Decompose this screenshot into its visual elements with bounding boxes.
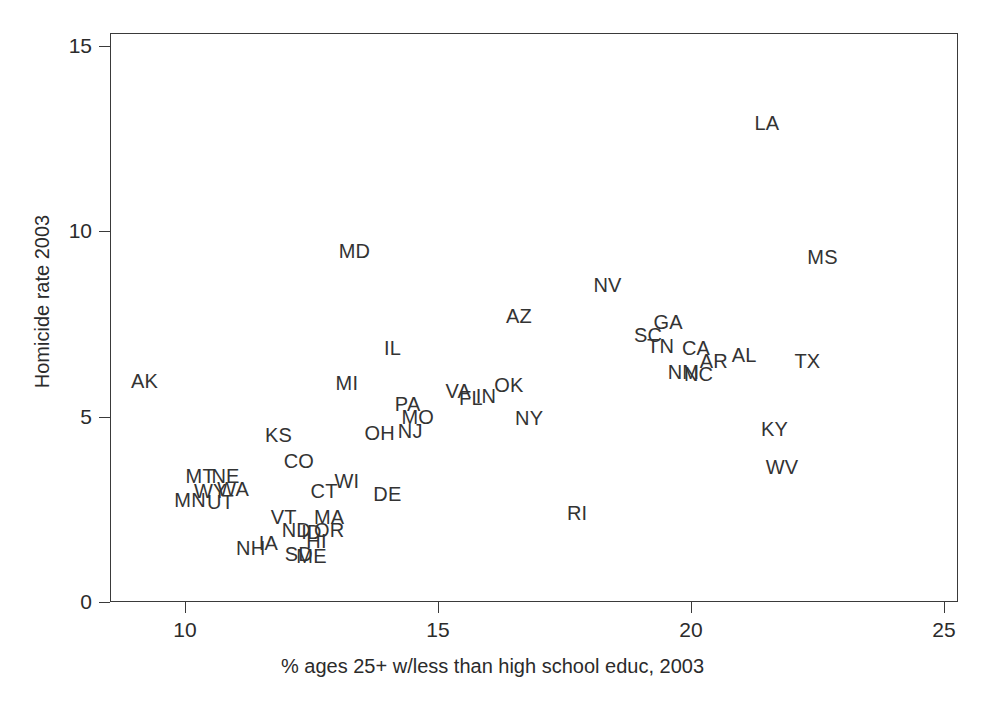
y-tick-label-wrap: 0 <box>0 591 92 612</box>
y-axis-title: Homicide rate 2003 <box>31 112 54 492</box>
x-tick-mark <box>691 602 692 613</box>
data-point-label-oh: OH <box>365 423 395 443</box>
y-tick-mark <box>99 231 110 232</box>
data-point-label-ia: IA <box>259 533 278 553</box>
data-point-label-ga: GA <box>654 312 683 332</box>
data-point-label-tn: TN <box>647 336 674 356</box>
data-point-label-az: AZ <box>506 306 532 326</box>
x-tick-label: 10 <box>145 618 225 642</box>
data-point-label-md: MD <box>339 241 371 261</box>
data-point-label-la: LA <box>754 113 779 133</box>
data-point-label-ri: RI <box>567 503 587 523</box>
y-tick-label: 15 <box>26 35 92 56</box>
y-tick-mark <box>99 46 110 47</box>
data-point-label-wv: WV <box>766 457 799 477</box>
x-tick-label: 15 <box>398 618 478 642</box>
y-tick-mark <box>99 602 110 603</box>
y-tick-label: 5 <box>26 406 92 427</box>
data-point-label-or: OR <box>314 520 344 540</box>
data-point-label-mi: MI <box>336 373 359 393</box>
y-tick-label: 0 <box>26 591 92 612</box>
data-point-label-ok: OK <box>494 375 523 395</box>
plot-frame <box>110 33 958 602</box>
y-tick-mark <box>99 417 110 418</box>
data-point-label-mo: MO <box>401 407 434 427</box>
y-tick-label: 10 <box>26 220 92 241</box>
x-tick-label: 25 <box>904 618 984 642</box>
data-point-label-co: CO <box>284 451 314 471</box>
data-point-label-al: AL <box>732 345 757 365</box>
x-tick-label: 20 <box>651 618 731 642</box>
x-axis-title: % ages 25+ w/less than high school educ,… <box>0 655 985 678</box>
y-tick-label-wrap: 10 <box>0 220 92 241</box>
data-point-label-ak: AK <box>131 371 158 391</box>
y-tick-label-wrap: 5 <box>0 406 92 427</box>
data-point-label-ks: KS <box>265 425 292 445</box>
data-point-label-il: IL <box>384 338 401 358</box>
y-tick-label-wrap: 15 <box>0 35 92 56</box>
scatter-plot-figure: Homicide rate 2003 051015 AKMNMTWYUTNEWA… <box>0 0 985 709</box>
x-tick-mark <box>438 602 439 613</box>
x-tick-mark <box>185 602 186 613</box>
data-point-label-ny: NY <box>515 408 543 428</box>
data-point-label-de: DE <box>373 484 401 504</box>
data-point-label-wi: WI <box>334 471 359 491</box>
data-point-label-ar: AR <box>700 351 728 371</box>
data-point-label-ky: KY <box>761 419 788 439</box>
data-point-label-tx: TX <box>794 351 820 371</box>
x-tick-mark <box>944 602 945 613</box>
data-point-label-wa: WA <box>217 479 249 499</box>
data-point-label-nv: NV <box>593 275 621 295</box>
data-point-label-ms: MS <box>807 247 837 267</box>
